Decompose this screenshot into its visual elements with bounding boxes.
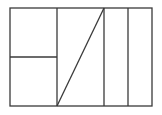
diagonal-line <box>57 8 104 106</box>
partition-diagram <box>0 0 162 115</box>
